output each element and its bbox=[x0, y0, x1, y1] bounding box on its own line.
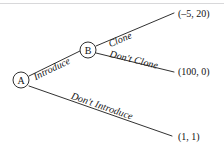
diagram-canvas: A B Introduce Clone Don't Clone Don't In… bbox=[0, 0, 224, 154]
payoff-dont-clone: (100, 0) bbox=[178, 67, 210, 77]
payoff-clone: (–5, 20) bbox=[178, 9, 210, 19]
node-a-label: A bbox=[17, 75, 25, 86]
node-b-label: B bbox=[85, 45, 92, 56]
payoff-dont-introduce: (1, 1) bbox=[178, 132, 200, 142]
